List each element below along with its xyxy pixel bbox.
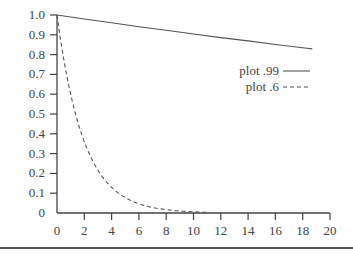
y-tick-label: 0.4 [29,126,46,141]
y-tick-label: 0.8 [29,47,45,62]
x-tick-label: 4 [108,223,115,238]
x-tick-label: 2 [81,223,88,238]
x-tick-label: 14 [242,223,256,238]
x-tick-label: 10 [187,223,200,238]
y-tick-label: 0.3 [29,146,45,161]
y-tick-label: 1.0 [29,7,45,22]
y-tick-label: 0.7 [29,66,46,81]
line-chart: 00.10.20.30.40.50.60.70.80.91.0024681012… [0,0,353,254]
legend: plot .99plot .6 [239,63,310,94]
y-tick-label: 0 [39,205,46,220]
y-tick-label: 0.6 [29,86,46,101]
bottom-divider [0,247,353,249]
series-line-plot-6 [57,15,207,212]
legend-label: plot .99 [239,63,279,78]
y-tick-label: 0.5 [29,106,45,121]
y-tick-label: 0.9 [29,27,45,42]
y-tick-label: 0.1 [29,185,45,200]
y-tick-label: 0.2 [29,165,45,180]
plot-series [57,15,312,212]
series-line-plot-99 [57,15,312,49]
x-tick-label: 0 [54,223,61,238]
axes: 00.10.20.30.40.50.60.70.80.91.0024681012… [29,7,337,238]
x-tick-label: 16 [269,223,283,238]
legend-label: plot .6 [246,79,280,94]
x-tick-label: 12 [214,223,227,238]
x-tick-label: 6 [136,223,143,238]
x-tick-label: 8 [163,223,170,238]
x-tick-label: 20 [324,223,337,238]
x-tick-label: 18 [296,223,309,238]
